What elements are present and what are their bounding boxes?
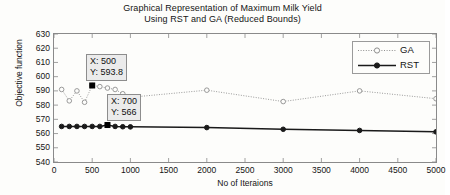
- y-tick-label: 570: [24, 115, 50, 124]
- x-tick-label: 5000: [416, 165, 450, 175]
- data-tip-rst-x: X: 700: [111, 96, 137, 107]
- x-tick-label: 1000: [110, 165, 150, 175]
- chart-title: Graphical Representation of Maximum Milk…: [0, 3, 445, 25]
- x-tick-label: 2000: [187, 165, 227, 175]
- series-rst: [59, 123, 436, 134]
- chart-title-line-2: Using RST and GA (Reduced Bounds): [0, 14, 445, 25]
- x-axis-label: No of Iteraions: [53, 178, 437, 188]
- x-axis-tick-labels: 0500100015002000250030003500400045005000: [53, 165, 437, 177]
- y-tick-label: 620: [24, 44, 50, 53]
- data-tip-ga: X: 500 Y: 593.8: [86, 54, 127, 81]
- legend-entry-ga: GA: [353, 43, 431, 58]
- legend-label-rst: RST: [400, 59, 419, 70]
- y-tick-label: 580: [24, 101, 50, 110]
- x-tick-label: 4500: [378, 165, 418, 175]
- y-tick-label: 630: [24, 30, 50, 39]
- y-tick-label: 600: [24, 72, 50, 81]
- data-tip-ga-y: Y: 593.8: [90, 67, 123, 78]
- data-tip-rst: X: 700 Y: 566: [107, 94, 141, 121]
- y-tick-label: 610: [24, 58, 50, 67]
- x-tick-label: 0: [34, 165, 74, 175]
- legend-sample-rst-icon: [357, 58, 397, 73]
- chart-legend: GA RST: [352, 41, 430, 74]
- legend-entry-rst: RST: [353, 58, 431, 73]
- y-tick-label: 590: [24, 86, 50, 95]
- data-tip-ga-x: X: 500: [90, 56, 123, 67]
- x-tick-label: 3000: [263, 165, 303, 175]
- data-tip-rst-y: Y: 566: [111, 107, 137, 118]
- chart-title-line-1: Graphical Representation of Maximum Milk…: [0, 3, 445, 14]
- y-tick-label: 550: [24, 143, 50, 152]
- x-tick-label: 2500: [225, 165, 265, 175]
- selected-point-marker: [104, 122, 110, 128]
- x-tick-label: 1500: [149, 165, 189, 175]
- x-tick-label: 4000: [340, 165, 380, 175]
- x-tick-label: 3500: [301, 165, 341, 175]
- x-tick-label: 500: [72, 165, 112, 175]
- selected-point-marker: [89, 82, 95, 88]
- legend-label-ga: GA: [400, 44, 414, 55]
- legend-sample-ga-icon: [357, 43, 397, 58]
- y-tick-label: 560: [24, 129, 50, 138]
- y-axis-tick-labels: 630620610600590580570560550540: [20, 33, 50, 163]
